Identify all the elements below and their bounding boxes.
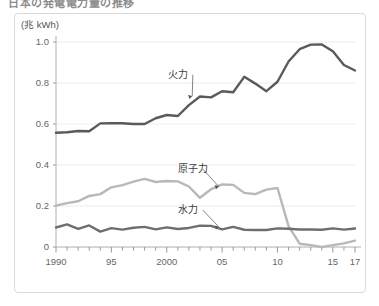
series-label-火力: 火力 bbox=[168, 68, 188, 80]
x-tick-label: 05 bbox=[217, 256, 228, 267]
y-tick-label: 0.8 bbox=[36, 77, 49, 88]
x-tick-label: 1990 bbox=[45, 256, 66, 267]
series-line-火力 bbox=[56, 44, 355, 132]
chart-frame: (兆 kWh)00.20.40.60.81.019909520000510151… bbox=[14, 13, 366, 293]
leader-arrow-火力 bbox=[188, 95, 192, 99]
y-tick-label: 0.2 bbox=[36, 200, 49, 211]
title-strip: 日本の発電電力量の推移 bbox=[0, 0, 379, 12]
x-tick-label: 15 bbox=[328, 256, 339, 267]
y-axis-unit-label: (兆 kWh) bbox=[21, 19, 59, 30]
leader-line-水力 bbox=[203, 210, 219, 227]
y-tick-label: 0.6 bbox=[36, 118, 49, 129]
x-tick-label: 10 bbox=[272, 256, 283, 267]
line-chart: (兆 kWh)00.20.40.60.81.019909520000510151… bbox=[15, 14, 367, 294]
leader-line-火力 bbox=[192, 75, 193, 97]
x-tick-label: 95 bbox=[106, 256, 117, 267]
page-title: 日本の発電電力量の推移 bbox=[8, 0, 135, 10]
series-line-水力 bbox=[56, 224, 355, 231]
series-label-水力: 水力 bbox=[178, 203, 198, 215]
x-tick-label: 2000 bbox=[156, 256, 177, 267]
y-tick-label: 1.0 bbox=[36, 36, 49, 47]
y-tick-label: 0 bbox=[44, 241, 49, 252]
y-tick-label: 0.4 bbox=[36, 159, 49, 170]
series-label-原子力: 原子力 bbox=[178, 162, 208, 174]
x-tick-label: 17 bbox=[350, 256, 361, 267]
